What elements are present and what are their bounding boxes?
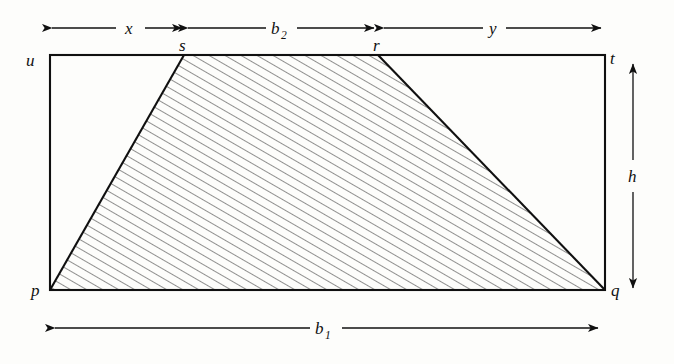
vertex-label-t: t [610,49,616,68]
vertex-label-r: r [373,36,380,55]
dimension-label-y: y [487,19,497,38]
dimension-h: h [628,64,637,288]
dimension-label-h: h [628,167,637,186]
dimension-y: y [384,19,601,38]
figure-canvas: u t p q s r x b 2 y h [0,0,674,364]
dimension-label-b1-subscript: 1 [325,329,331,341]
vertex-label-s: s [179,36,186,55]
dimension-b1: b 1 [55,319,598,341]
dimension-label-x: x [124,19,133,38]
dimension-x: x [52,19,182,38]
vertex-label-q: q [611,281,620,300]
dimension-b2: b 2 [188,19,374,41]
dimension-label-b2: b [271,19,280,38]
vertex-label-u: u [26,51,35,70]
dimension-label-b1: b [315,319,324,338]
geometry-figure: u t p q s r x b 2 y h [0,0,674,364]
trapezoid-shape [50,55,605,290]
trapezoid-hatch-fill [50,55,605,290]
vertex-label-p: p [30,281,40,300]
dimension-label-b2-subscript: 2 [281,29,287,41]
